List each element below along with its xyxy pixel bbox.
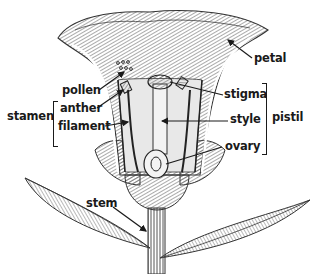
label-stem: stem [86,198,117,210]
label-stigma: stigma [224,89,267,101]
label-style: style [230,114,261,126]
stem [148,208,165,274]
label-stamen: stamen [7,111,54,123]
label-anther: anther [60,103,102,115]
label-petal: petal [254,53,286,65]
label-ovary: ovary [225,141,260,153]
leaf-right [160,200,310,258]
label-filament: filament [58,121,111,133]
label-pistil: pistil [272,112,303,124]
label-pollen: pollen [62,85,101,97]
flower-illustration [0,0,322,274]
pistil-bracket [262,83,267,155]
